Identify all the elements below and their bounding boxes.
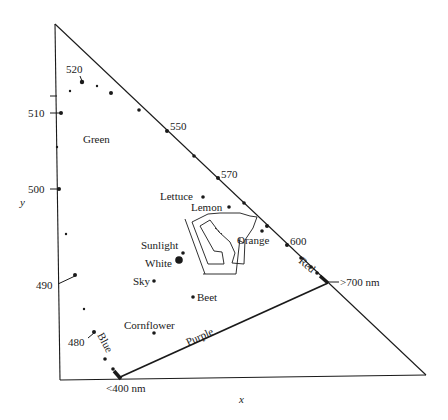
dot [192,154,196,158]
dot-600 [285,243,289,247]
violet-end-cluster [114,371,121,379]
beet-dot [191,295,195,299]
white-dot [175,256,183,264]
triangle-frame [50,24,426,380]
y-axis-label: y [19,196,25,208]
gamut-line [185,219,205,274]
dot [315,271,319,275]
label-480: 480 [68,336,85,348]
sunlight-dot [181,251,185,255]
dot [69,90,71,92]
label-500: 500 [28,183,45,195]
dot [56,146,58,148]
white-label: White [145,257,172,269]
dot [65,233,67,235]
label-550: 550 [170,120,187,132]
dot [265,224,269,228]
cornflower-dot [152,331,156,335]
region-purple-label: Purple [184,325,215,348]
orange-dot [260,229,264,233]
lettuce-dot [201,195,205,199]
bottom-edge [60,375,426,380]
dot-570 [216,176,220,180]
sky-dot [152,279,156,283]
dot [242,201,246,205]
region-green-label: Green [83,133,110,145]
cornflower-label: Cornflower [124,319,175,331]
lemon-label: Lemon [191,201,223,213]
label-570: 570 [221,168,238,180]
orange-label: Orange [237,234,269,246]
chromaticity-diagram: 520 510 500 490 480 550 570 600 >700 nm … [0,0,448,420]
beet-label: Beet [197,291,217,303]
leader-490 [58,276,75,284]
dot [111,367,115,371]
sky-label: Sky [133,275,151,287]
dot [137,108,141,112]
lettuce-label: Lettuce [160,190,193,202]
label-520: 520 [66,63,83,75]
label-490: 490 [36,279,53,291]
x-axis-label: x [238,393,244,405]
label-510: 510 [28,107,45,119]
dot [109,91,113,95]
label-600: 600 [290,235,307,247]
gamut-dash [215,228,222,234]
label-400nm: <400 nm [106,382,146,394]
leader-480 [88,333,94,338]
red-end-cluster [320,276,328,283]
lemon-dot [227,205,231,209]
dot-550 [165,129,169,133]
left-edge [55,24,60,380]
dot [83,308,85,310]
region-blue-label: Blue [95,330,115,354]
label-700nm: >700 nm [340,276,380,288]
sunlight-label: Sunlight [141,239,178,251]
dot [103,357,107,361]
dot [96,85,98,87]
